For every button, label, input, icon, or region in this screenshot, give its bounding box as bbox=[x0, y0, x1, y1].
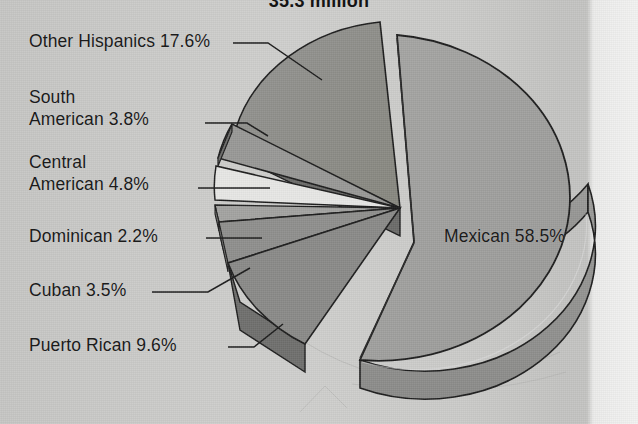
label-puerto-rican: Puerto Rican 9.6% bbox=[29, 335, 177, 356]
label-south-american-line1: South bbox=[29, 87, 75, 108]
label-other-hispanics: Other Hispanics 17.6% bbox=[29, 31, 210, 52]
pie-chart-graphic bbox=[0, 0, 638, 424]
label-central-american-line1: Central bbox=[29, 152, 86, 173]
label-south-american-line2: American 3.8% bbox=[29, 109, 149, 130]
label-central-american-line2: American 4.8% bbox=[29, 174, 149, 195]
label-cuban: Cuban 3.5% bbox=[29, 280, 126, 301]
label-dominican: Dominican 2.2% bbox=[29, 226, 158, 247]
label-mexican: Mexican 58.5% bbox=[444, 226, 565, 247]
chart-title: 35.3 million bbox=[0, 0, 638, 12]
